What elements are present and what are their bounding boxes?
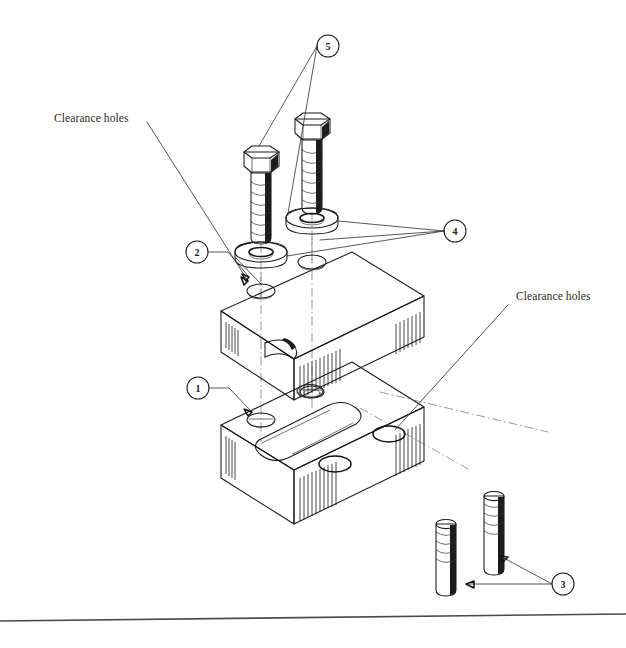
leader-balloon-3-to-rear-stud (500, 556, 552, 584)
balloon-3-label: 3 (561, 579, 566, 590)
channel-outline (255, 402, 361, 460)
lower-block-top-face (221, 362, 424, 470)
lower-block-hole-channel-front (319, 456, 351, 472)
leader-balloon-3-arrowhead-front (466, 581, 474, 588)
lower-block-right-face (294, 407, 424, 524)
upper-block-front-hatch (226, 322, 238, 356)
lower-block-front-hatch (226, 436, 235, 480)
clearance-holes-label-left: Clearance holes (54, 112, 129, 124)
studs-group (436, 491, 504, 596)
leaders-balloon-4 (287, 221, 444, 256)
exploded-assembly-drawing: 1 2 3 4 5 Clearance holes Clearance hole… (0, 0, 626, 648)
balloons-group: 1 2 3 4 5 (186, 35, 574, 595)
stud-front (436, 519, 456, 596)
hole-ellipse-dark (319, 456, 351, 472)
upper-block-front-face (221, 311, 294, 400)
washers-group (235, 208, 338, 268)
clearance-holes-label-right: Clearance holes (516, 290, 591, 302)
balloon-4[interactable]: 4 (444, 220, 466, 242)
drawing-page: 1 2 3 4 5 Clearance holes Clearance hole… (0, 0, 626, 648)
leader-balloon-4-to-hole (320, 231, 444, 240)
balloon-5-label: 5 (326, 41, 331, 52)
footer-rule (0, 614, 626, 621)
leader-balloon-4-to-front-washer (287, 231, 444, 256)
leader-clearance-left-arrowhead (241, 277, 248, 285)
balloon-5[interactable]: 5 (317, 35, 339, 57)
upper-block-right-hatch (300, 312, 420, 398)
balloon-4-label: 4 (453, 226, 458, 237)
centerline-stud-right-axis (380, 392, 548, 432)
upper-block-notch (265, 338, 297, 359)
balloon-2[interactable]: 2 (186, 241, 208, 263)
leaders-balloon-3 (466, 556, 552, 588)
leaders-clearance-right (360, 305, 548, 470)
channel-floor-edge (293, 423, 353, 454)
balloon-1-label: 1 (196, 383, 201, 394)
balloon-3[interactable]: 3 (552, 573, 574, 595)
leaders-lower-block (209, 388, 252, 416)
lower-block-channel (255, 402, 361, 460)
hex-bolt-rear (295, 113, 330, 214)
stud-rear (484, 491, 504, 575)
hex-bolt-front (244, 146, 279, 244)
channel-inner-edge (262, 410, 330, 443)
balloon-2-label: 2 (195, 247, 200, 258)
notch-bottom-arc (265, 354, 292, 358)
balloon-1[interactable]: 1 (187, 377, 209, 399)
leader-balloon-4-to-rear-washer (338, 221, 444, 231)
leader-balloon-1 (209, 388, 252, 412)
notch-shadow (282, 338, 296, 350)
